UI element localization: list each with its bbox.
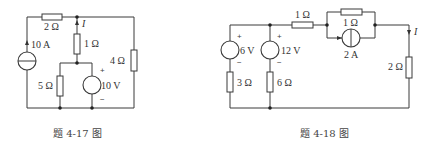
caption-fig-4-18: 题 4-18 图 [300, 128, 349, 139]
current-arrow-icon [75, 20, 79, 25]
resistor-1ohm [74, 34, 80, 54]
outer-wire [230, 25, 409, 108]
label-6ohm: 6 Ω [277, 77, 292, 88]
label-1ohm: 1 Ω [84, 38, 99, 49]
voltage-source-12V [261, 41, 279, 59]
resistor-5ohm [57, 76, 63, 96]
node-parallel-right [373, 23, 377, 27]
circuit-diagrams: 2 Ω I 1 Ω 10 A 4 Ω 5 Ω + − 10 V 题 4-17 图 [0, 0, 430, 147]
label-parallel-1ohm: 1 Ω [343, 17, 358, 28]
source-arrow-up-icon [25, 40, 29, 45]
label-series-1ohm: 1 Ω [295, 9, 310, 20]
plus-sign-6V: + [237, 32, 242, 41]
resistor-2ohm [42, 14, 62, 20]
minus-sign-12V: − [277, 58, 282, 67]
voltage-source-6V [221, 41, 239, 59]
label-2A: 2 A [344, 49, 359, 60]
label-5ohm: 5 Ω [38, 80, 53, 91]
label-3ohm: 3 Ω [237, 77, 252, 88]
node-top [75, 15, 79, 19]
current-arrow-down-icon [407, 30, 411, 35]
label-12V: 12 V [281, 45, 301, 56]
node-parallel-left [325, 23, 329, 27]
plus-sign: + [100, 66, 105, 75]
resistor-4ohm [131, 50, 137, 71]
caption-fig-4-17: 题 4-17 图 [53, 128, 102, 139]
node-bottom-left [58, 106, 62, 110]
resistor-series-1ohm [292, 22, 313, 28]
minus-sign: − [100, 95, 105, 104]
minus-sign-6V: − [237, 58, 242, 67]
voltage-source-10V [83, 76, 101, 94]
resistor-parallel-1ohm [341, 9, 362, 15]
label-4ohm: 4 Ω [110, 55, 125, 66]
node-top-left [268, 23, 272, 27]
label-6V: 6 V [240, 45, 255, 56]
label-current-I: I [81, 18, 86, 29]
node-bottom [268, 106, 272, 110]
label-10V: 10 V [101, 80, 121, 91]
node-bottom-right [90, 106, 94, 110]
figure-4-17: 2 Ω I 1 Ω 10 A 4 Ω 5 Ω + − 10 V 题 4-17 图 [18, 14, 137, 139]
node-middle [75, 61, 79, 65]
label-2ohm: 2 Ω [44, 21, 59, 32]
label-10A: 10 A [31, 39, 51, 50]
resistor-3ohm [227, 72, 233, 92]
resistor-2ohm [406, 57, 412, 78]
figure-4-18: + − 6 V + − 12 V 3 Ω 6 Ω 1 Ω 1 Ω 2 A I [221, 9, 418, 139]
label-current-I: I [413, 26, 418, 37]
resistor-6ohm [267, 72, 273, 92]
label-2ohm: 2 Ω [388, 61, 403, 72]
plus-sign-12V: + [277, 32, 282, 41]
source-arrow-right-icon [337, 36, 342, 40]
